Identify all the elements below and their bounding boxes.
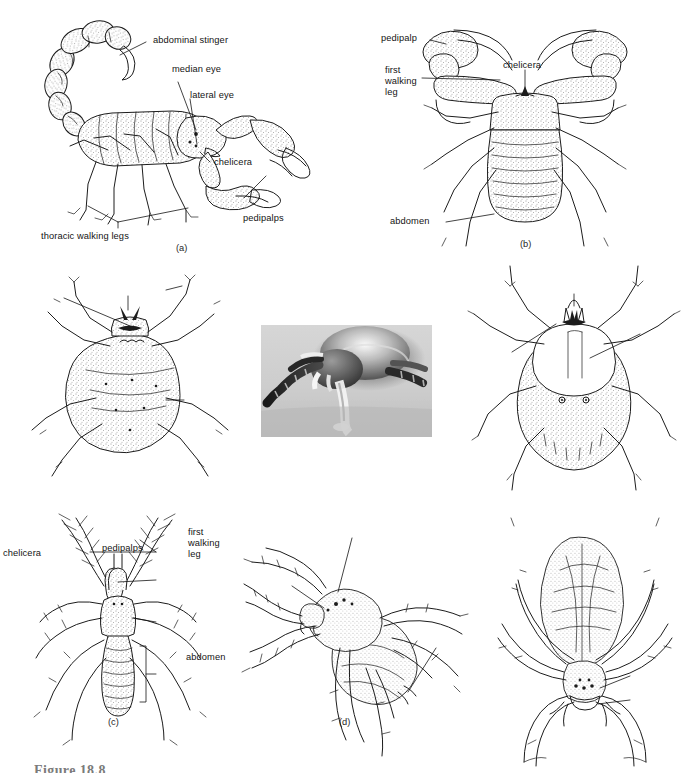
panel-h-orb-weaver: chelicera pedipalp (h) xyxy=(470,500,700,773)
label-chelicera-a: chelicera xyxy=(214,157,252,168)
panel-g-wolf-spider: chelicera pedipalp spinnerets (g) xyxy=(240,500,470,773)
label-thoracic-walking-legs: thoracic walking legs xyxy=(41,231,129,242)
panel-b-pseudoscorpion: pedipalp first walking leg chelicera abd… xyxy=(350,0,700,258)
label-pedipalps-a: pedipalps xyxy=(243,213,284,224)
mite-dorsal-drawing xyxy=(0,258,245,488)
label-median-eye: median eye xyxy=(172,64,221,75)
panel-a-scorpion: abdominal stinger median eye lateral eye… xyxy=(0,0,350,258)
orb-weaver-dorsal-drawing xyxy=(470,500,700,773)
label-chelicera-b: chelicera xyxy=(503,60,541,71)
panel-d-tick-micrograph: (d) xyxy=(245,258,450,488)
panel-label-b: (b) xyxy=(520,239,531,249)
solpugid-dorsal-drawing xyxy=(0,500,240,773)
panel-f-solpugid: pedipalps chelicera thorax abdomen (f) xyxy=(0,500,240,773)
panel-label-a: (a) xyxy=(176,243,187,253)
label-abdominal-stinger: abdominal stinger xyxy=(153,35,228,46)
tick-electron-micrograph-image xyxy=(261,325,432,437)
label-first-walking-leg-b: first walking leg xyxy=(385,65,417,98)
label-lateral-eye: lateral eye xyxy=(190,90,234,101)
label-pedipalp-b: pedipalp xyxy=(381,33,417,44)
tick-dorsal-drawing xyxy=(450,258,700,488)
label-abdomen-b: abdomen xyxy=(390,216,429,227)
wolf-spider-oblique-drawing xyxy=(240,500,470,773)
figure-caption: Figure 18.8 xyxy=(34,763,106,773)
figure-plate: abdominal stinger median eye lateral eye… xyxy=(0,0,700,773)
panel-e-tick: pedipalps chelicera dorsal shield (e) xyxy=(450,258,700,488)
panel-c-mite: chelicera pedipalps first walking leg ab… xyxy=(0,258,245,488)
